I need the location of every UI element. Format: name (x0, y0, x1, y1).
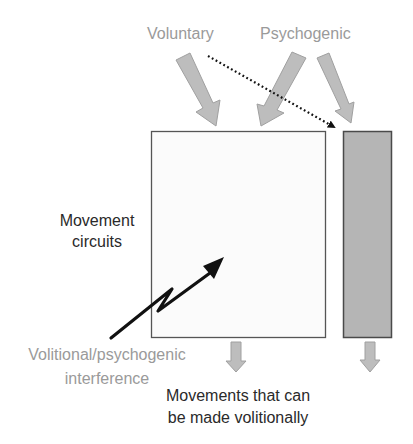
interference-label: Volitional/psychogenic interference (10, 344, 204, 389)
movement-circuits-line2: circuits (50, 231, 144, 252)
movement-circuits-line1: Movement (50, 210, 144, 231)
psychogenic-output-box (344, 132, 392, 338)
movement-circuits-label: Movement circuits (50, 210, 144, 252)
movement-circuits-box (152, 132, 326, 338)
output-line2: be made volitionally (148, 407, 328, 428)
interference-line1: Volitional/psychogenic (10, 344, 204, 365)
main-output-arrow-icon (226, 342, 246, 372)
side-output-arrow-icon (360, 342, 380, 372)
voluntary-input-arrow-icon (176, 53, 220, 126)
voluntary-label: Voluntary (147, 23, 214, 44)
psychogenic-input-arrow-side-icon (317, 53, 354, 123)
movement-circuits-diagram: Voluntary Psychogenic Movement circuits … (0, 0, 413, 444)
output-line1: Movements that can (148, 385, 328, 406)
output-label: Movements that can be made volitionally (148, 385, 328, 428)
psychogenic-label: Psychogenic (260, 23, 351, 44)
psychogenic-input-arrow-main-icon (257, 52, 306, 126)
